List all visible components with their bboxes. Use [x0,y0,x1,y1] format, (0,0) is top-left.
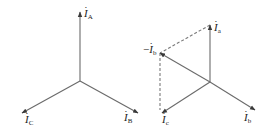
secondary-label-neg-b: −•Ib [143,44,156,57]
secondary-label-a: •Ia [214,22,221,35]
secondary-label-c: •Ic [162,114,169,127]
phasor-diagram [0,0,273,135]
primary-label-B: •IB [124,112,132,125]
phasor-b [210,82,255,110]
phasor-C [22,81,80,113]
secondary-phasor-group [160,25,255,113]
phasor-c [162,82,210,113]
secondary-label-b: •Ib [244,112,251,125]
primary-phasor-group [22,12,138,113]
dashed-construction-line-0 [160,25,210,53]
primary-label-A: •IA [84,8,93,21]
primary-label-C: •IC [25,114,33,127]
phasor-B [80,81,138,113]
phasor-neg-b [160,53,210,82]
